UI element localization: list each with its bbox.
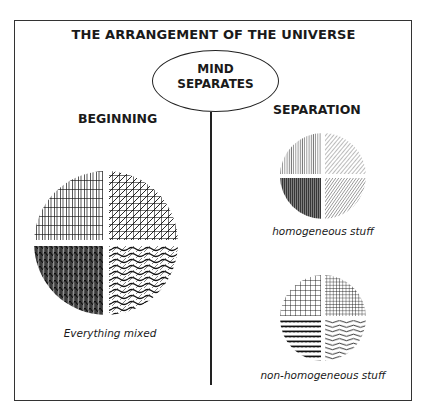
non-homogeneous-caption: non-homogeneous stuff	[253, 369, 393, 381]
everything-mixed-caption: Everything mixed	[40, 327, 180, 339]
homogeneous-circle	[280, 133, 366, 219]
homogeneous-caption: homogeneous stuff	[263, 225, 383, 237]
pattern-circles	[0, 0, 427, 420]
beginning-circle	[34, 171, 178, 315]
non-homogeneous-circle	[280, 275, 366, 361]
